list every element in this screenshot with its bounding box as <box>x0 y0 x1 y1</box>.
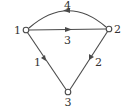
edge-2-to-1: 4 <box>29 0 106 28</box>
arrow-right-icon <box>65 27 72 32</box>
node-circle <box>106 26 112 32</box>
edge-weight-label: 3 <box>64 34 71 47</box>
edge-weight-label: 1 <box>34 56 41 69</box>
arrow-down-left-icon <box>89 54 94 60</box>
node-circle <box>65 89 71 95</box>
edge-2-to-3: 2 <box>70 32 108 90</box>
edge-weight-label: 4 <box>64 0 71 12</box>
edge-line <box>29 11 106 28</box>
edge-1-to-2: 3 <box>29 27 106 47</box>
node-1: 1 <box>14 24 29 37</box>
node-label: 3 <box>65 96 72 108</box>
graph-diagram: 4 3 1 2 1 2 3 <box>0 0 127 108</box>
node-label: 1 <box>14 24 21 37</box>
node-circle <box>23 27 29 33</box>
node-2: 2 <box>106 23 121 36</box>
node-label: 2 <box>114 23 121 36</box>
node-3: 3 <box>65 89 72 108</box>
edge-1-to-3: 1 <box>28 33 67 90</box>
edge-weight-label: 2 <box>95 56 102 69</box>
